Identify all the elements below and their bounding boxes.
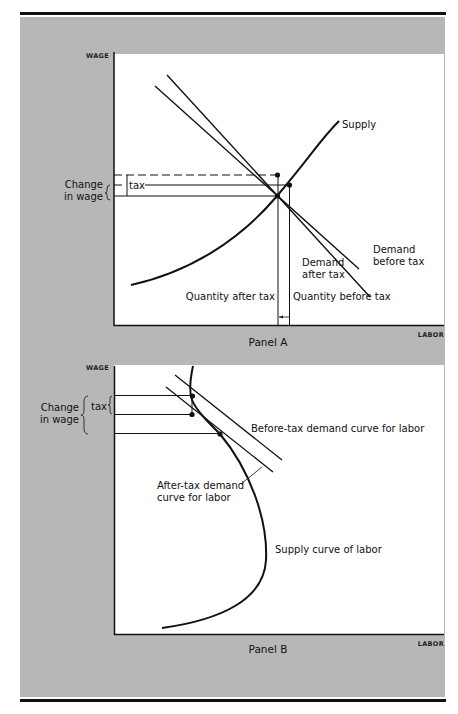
panel-a-change-in-wage-label-1: Change — [65, 179, 103, 190]
panel-b-supply-label: Supply curve of labor — [275, 544, 383, 555]
panel-a-demand-after-label-1: Demand — [302, 257, 344, 268]
panel-b-change-in-wage-label-2: in wage — [40, 414, 79, 425]
panel-a-brace-icon — [105, 185, 110, 200]
panel-b-after-tax-demand-label-1: After-tax demand — [157, 480, 244, 491]
panel-a-supply-label: Supply — [342, 119, 376, 130]
panel-b-tax-brace-icon — [108, 396, 112, 414]
panel-b-title: Panel B — [249, 643, 288, 655]
panel-a-plot-area — [114, 54, 444, 326]
panel-b-change-in-wage-label-1: Change — [41, 402, 79, 413]
panel-a-demand-before-label-2: before tax — [373, 256, 424, 267]
panel-b-point-net-wage — [189, 412, 194, 417]
panel-b-tax-label: tax — [91, 401, 107, 412]
panel-a-tax-label: tax — [129, 180, 145, 191]
panel-a-quantity-before-label: Quantity before tax — [293, 291, 391, 302]
panel-a-change-in-wage-label-2: in wage — [64, 191, 103, 202]
figure-svg: WAGE LABOR tax Change in wage Supply Dem… — [0, 0, 458, 714]
panel-b: WAGE LABOR tax Change in wage Before-tax… — [40, 364, 444, 655]
panel-b-before-tax-demand-label: Before-tax demand curve for labor — [251, 423, 425, 434]
panel-b-after-tax-demand-label-2: curve for labor — [157, 492, 231, 503]
panel-b-point-pretax-equilibrium — [217, 431, 222, 436]
panel-b-y-axis-label: WAGE — [86, 364, 109, 372]
panel-a-y-axis-label: WAGE — [86, 52, 109, 60]
panel-b-change-brace-icon — [81, 396, 88, 434]
panel-b-point-gross-wage — [190, 393, 195, 398]
panel-a-demand-after-label-2: after tax — [302, 269, 345, 280]
panel-a-title: Panel A — [249, 336, 289, 348]
panel-b-x-axis-label: LABOR — [418, 640, 444, 648]
panel-a-point-net-wage — [275, 193, 280, 198]
panel-a-x-axis-label: LABOR — [418, 331, 444, 339]
panel-a-quantity-after-label: Quantity after tax — [186, 291, 275, 302]
panel-a-point-pretax-equilibrium — [287, 182, 292, 187]
panel-a-point-gross-wage — [275, 172, 280, 177]
panel-a: WAGE LABOR tax Change in wage Supply Dem… — [64, 52, 444, 348]
panel-a-demand-before-label-1: Demand — [373, 244, 415, 255]
